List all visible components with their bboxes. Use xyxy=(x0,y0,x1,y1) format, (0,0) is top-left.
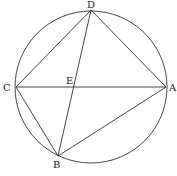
segment-ab xyxy=(58,87,166,156)
label-b: B xyxy=(53,159,60,170)
geometry-diagram: A B C D E xyxy=(0,0,177,176)
segment-cd xyxy=(16,10,91,87)
label-e: E xyxy=(66,75,73,86)
label-a: A xyxy=(168,82,177,93)
label-d: D xyxy=(87,0,95,10)
label-c: C xyxy=(3,82,11,93)
segment-da xyxy=(91,10,166,87)
segment-db xyxy=(58,10,91,156)
segment-bc xyxy=(16,87,58,156)
